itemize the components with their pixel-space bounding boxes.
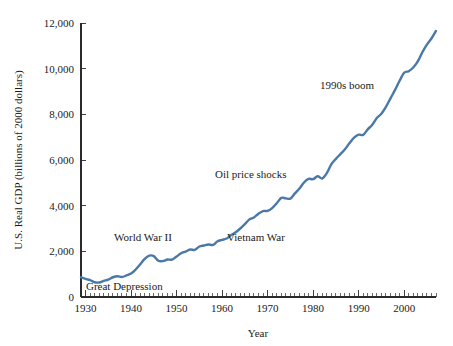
gdp-series-line [81,31,436,283]
x-tick-label-1940: 1940 [120,302,143,314]
annotation-world-war-ii: World War II [114,231,172,243]
y-tick-label-12000: 12,000 [44,17,75,29]
y-tick-label-2000: 2,000 [49,245,74,257]
y-tick-label-10000: 10,000 [44,63,75,75]
y-tick-label-8000: 8,000 [49,108,74,120]
annotation-1990s-boom: 1990s boom [320,79,375,91]
chart-annotations: Great DepressionWorld War IIVietnam WarO… [86,79,375,292]
x-tick-label-1960: 1960 [211,302,234,314]
gdp-line-chart: 02,0004,0006,0008,00010,00012,000 193019… [0,0,453,346]
chart-page: 02,0004,0006,0008,00010,00012,000 193019… [0,0,453,346]
x-tick-label-1930: 1930 [75,302,98,314]
y-tick-label-4000: 4,000 [49,200,74,212]
x-tick-label-2000: 2000 [393,302,416,314]
x-tick-label-1980: 1980 [302,302,325,314]
annotation-great-depression: Great Depression [86,280,163,292]
y-axis-title: U.S. Real GDP (billions of 2000 dollars) [12,70,25,250]
x-tick-label-1990: 1990 [348,302,371,314]
y-tick-label-6000: 6,000 [49,154,74,166]
x-axis-title: Year [248,327,269,339]
x-tick-label-1950: 1950 [166,302,189,314]
annotation-vietnam-war: Vietnam War [227,231,285,243]
y-axis-ticks [81,23,86,297]
y-axis-tick-labels: 02,0004,0006,0008,00010,00012,000 [44,17,75,303]
x-tick-label-1970: 1970 [257,302,280,314]
annotation-oil-price-shocks: Oil price shocks [215,168,286,180]
x-axis-minor-ticks [90,293,436,297]
x-axis-tick-labels: 19301940195019601970198019902000 [75,302,416,314]
